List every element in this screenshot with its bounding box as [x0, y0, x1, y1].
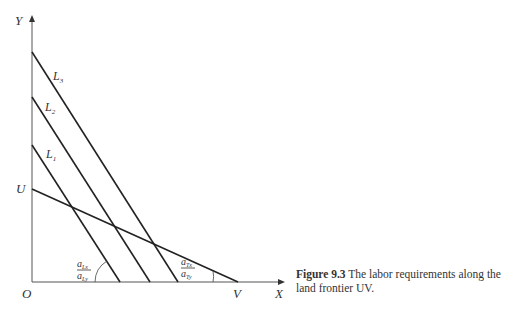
angle-arc-labor [95, 261, 107, 282]
line-l1-label: L1 [45, 147, 56, 163]
svg-text:aTy: aTy [181, 268, 192, 280]
point-v-label: V [233, 286, 243, 301]
line-l3 [32, 52, 178, 282]
svg-text:aTx: aTx [181, 256, 192, 268]
svg-text:aLx: aLx [77, 258, 88, 270]
x-axis-label: X [274, 286, 284, 301]
y-axis-label: Y [15, 13, 24, 28]
angle-arc-land [213, 271, 214, 282]
svg-text:aLy: aLy [77, 270, 88, 282]
figure-caption: Figure 9.3 The labor requirements along … [296, 267, 506, 295]
figure-caption-label: Figure 9.3 [296, 268, 346, 280]
line-l2 [32, 97, 150, 282]
line-l3-label: L3 [52, 69, 64, 85]
origin-label: O [22, 286, 32, 301]
point-u-label: U [16, 181, 27, 196]
land-frontier-uv [32, 189, 238, 282]
line-l2-label: L2 [44, 100, 56, 116]
labor-ratio-label: aLx aLy [77, 258, 91, 282]
